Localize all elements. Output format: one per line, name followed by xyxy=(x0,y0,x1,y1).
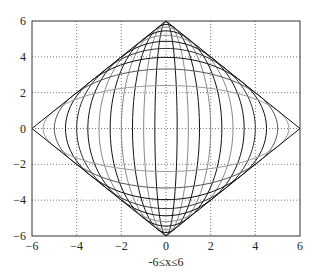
y-tick-label: 6 xyxy=(20,14,26,28)
x-tick-label: −2 xyxy=(115,239,128,253)
curve xyxy=(32,21,300,236)
x-tick-label: 4 xyxy=(252,239,258,253)
y-tick-label: −2 xyxy=(13,157,26,171)
x-tick-label: 6 xyxy=(297,239,303,253)
y-tick-label: 0 xyxy=(20,122,26,136)
x-tick-label: −6 xyxy=(26,239,39,253)
y-tick-labels: −6−4−20246 xyxy=(13,14,26,243)
y-tick-label: 4 xyxy=(20,50,26,64)
y-tick-label: 2 xyxy=(20,86,26,100)
y-tick-label: −4 xyxy=(13,193,26,207)
plot-frame xyxy=(32,21,300,236)
x-tick-labels: −6−4−20246 xyxy=(26,239,303,253)
x-tick-label: 2 xyxy=(208,239,214,253)
x-axis-label: -6≤x≤6 xyxy=(148,255,183,269)
curves xyxy=(32,21,300,236)
y-tick-label: −6 xyxy=(13,229,26,243)
x-tick-label: −4 xyxy=(70,239,83,253)
x-tick-label: 0 xyxy=(163,239,169,253)
ellipse-family-chart: −6−4−20246 −6−4−20246 -6≤x≤6 xyxy=(0,0,321,276)
grid-lines xyxy=(32,21,300,236)
